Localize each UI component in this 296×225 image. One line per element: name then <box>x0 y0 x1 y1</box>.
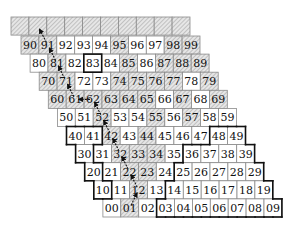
grid-cell-35: 35 <box>165 145 183 163</box>
grid-cell-16: 16 <box>201 181 219 199</box>
grid-cell-38: 38 <box>219 145 237 163</box>
cell-label: 78 <box>184 75 198 88</box>
grid-cell-12: 12 <box>130 181 148 199</box>
cell-label: 26 <box>194 166 208 179</box>
grid-cell-60: 60 <box>48 90 66 108</box>
cell-label: 72 <box>77 75 91 88</box>
grid-cells: 9091929394959697989980818283848586878889… <box>11 17 282 217</box>
grid-cell-68: 68 <box>192 90 210 108</box>
grid-cell-07: 07 <box>228 199 246 217</box>
grid-cell-74: 74 <box>111 72 129 90</box>
cell-label: 04 <box>176 202 190 215</box>
grid-cell-51: 51 <box>75 108 93 126</box>
cell-label: 27 <box>212 166 226 179</box>
grid-cell-39: 39 <box>237 145 255 163</box>
cell-label: 12 <box>132 184 146 197</box>
cell-label: 19 <box>257 184 271 197</box>
grid-cell-10: 10 <box>94 181 112 199</box>
grid-cell-61: 61 <box>66 90 84 108</box>
cell-label: 00 <box>105 202 119 215</box>
cell-label: 01 <box>123 202 137 215</box>
cell-label: 54 <box>131 111 145 124</box>
grid-cell-72: 72 <box>75 72 93 90</box>
grid-cell-29: 29 <box>246 163 264 181</box>
top-row-cell <box>47 17 65 35</box>
cell-label: 84 <box>104 57 118 70</box>
cell-label: 74 <box>113 75 127 88</box>
grid-svg: 9091929394959697989980818283848586878889… <box>0 0 296 225</box>
grid-cell-70: 70 <box>39 72 57 90</box>
grid-cell-49: 49 <box>228 127 246 145</box>
top-row-cell <box>136 17 154 35</box>
cell-label: 64 <box>122 93 136 106</box>
grid-cell-86: 86 <box>138 54 156 72</box>
cell-label: 03 <box>159 202 173 215</box>
grid-cell-04: 04 <box>175 199 193 217</box>
grid-cell-95: 95 <box>111 36 129 54</box>
grid-cell-83: 83 <box>84 54 102 72</box>
grid-cell-41: 41 <box>84 127 102 145</box>
grid-cell-65: 65 <box>138 90 156 108</box>
cell-label: 39 <box>239 148 253 161</box>
grid-cell-88: 88 <box>173 54 191 72</box>
grid-cell-05: 05 <box>192 199 210 217</box>
grid-cell-13: 13 <box>148 181 166 199</box>
grid-cell-45: 45 <box>156 127 174 145</box>
cell-label: 71 <box>59 75 73 88</box>
cell-label: 23 <box>140 166 154 179</box>
top-row-cell <box>101 17 119 35</box>
cell-label: 52 <box>95 111 109 124</box>
cell-label: 02 <box>141 202 155 215</box>
cell-label: 75 <box>131 75 145 88</box>
top-row-cell <box>83 17 101 35</box>
cell-label: 21 <box>105 166 119 179</box>
cell-label: 60 <box>50 93 64 106</box>
cell-label: 25 <box>176 166 190 179</box>
grid-cell-87: 87 <box>155 54 173 72</box>
cell-label: 42 <box>104 130 118 143</box>
grid-cell-08: 08 <box>246 199 264 217</box>
grid-cell-79: 79 <box>200 72 218 90</box>
grid-cell-66: 66 <box>156 90 174 108</box>
grid-cell-34: 34 <box>147 145 165 163</box>
cell-label: 90 <box>23 39 37 52</box>
grid-cell-50: 50 <box>57 108 75 126</box>
grid-cell-00: 00 <box>103 199 121 217</box>
cell-label: 08 <box>248 202 262 215</box>
cell-label: 83 <box>86 57 100 70</box>
cell-label: 51 <box>77 111 91 124</box>
cell-label: 73 <box>95 75 109 88</box>
cell-label: 76 <box>149 75 163 88</box>
grid-cell-54: 54 <box>129 108 147 126</box>
grid-cell-30: 30 <box>76 145 94 163</box>
cell-label: 44 <box>140 130 154 143</box>
cell-label: 88 <box>175 57 189 70</box>
grid-cell-26: 26 <box>192 163 210 181</box>
cell-label: 56 <box>167 111 181 124</box>
grid-cell-01: 01 <box>121 199 139 217</box>
cell-label: 87 <box>157 57 171 70</box>
cell-label: 11 <box>114 184 128 197</box>
cell-label: 43 <box>122 130 136 143</box>
cell-label: 31 <box>95 148 109 161</box>
grid-cell-69: 69 <box>209 90 227 108</box>
cell-label: 10 <box>96 184 110 197</box>
cell-label: 50 <box>59 111 73 124</box>
grid-cell-97: 97 <box>146 36 164 54</box>
grid-cell-03: 03 <box>157 199 175 217</box>
grid-cell-22: 22 <box>121 163 139 181</box>
grid-cell-82: 82 <box>66 54 84 72</box>
grid-cell-18: 18 <box>237 181 255 199</box>
grid-cell-71: 71 <box>57 72 75 90</box>
grid-cell-80: 80 <box>30 54 48 72</box>
cell-label: 93 <box>77 39 91 52</box>
grid-cell-47: 47 <box>192 127 210 145</box>
grid-cell-17: 17 <box>219 181 237 199</box>
grid-cell-90: 90 <box>21 36 39 54</box>
cell-label: 68 <box>193 93 207 106</box>
grid-cell-11: 11 <box>112 181 130 199</box>
cell-label: 06 <box>212 202 226 215</box>
cell-label: 79 <box>202 75 216 88</box>
cell-label: 05 <box>194 202 208 215</box>
cell-label: 82 <box>68 57 82 70</box>
